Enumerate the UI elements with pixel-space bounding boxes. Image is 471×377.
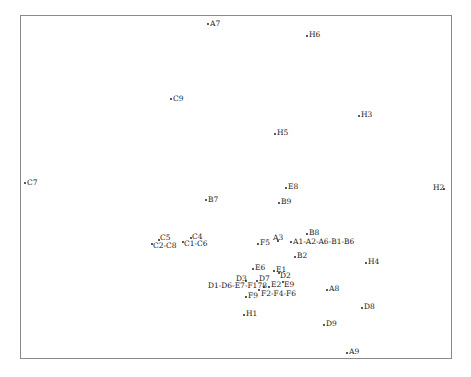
data-point-marker <box>252 268 254 270</box>
data-point-label: H4 <box>368 258 379 266</box>
data-point-marker <box>24 182 26 184</box>
data-point-marker <box>358 115 360 117</box>
data-point-label: E8 <box>288 183 298 191</box>
data-point-marker <box>274 133 276 135</box>
data-point-label: E2 <box>271 281 281 289</box>
data-point-label: C7 <box>27 179 38 187</box>
data-point-marker <box>294 256 296 258</box>
data-point-label: B2 <box>297 252 307 260</box>
data-point-marker <box>326 289 328 291</box>
data-point-label: F5 <box>260 239 270 247</box>
data-point-label: C1-C6 <box>184 240 208 248</box>
data-point-marker <box>278 202 280 204</box>
data-point-label: D2 <box>280 272 291 280</box>
data-point-marker <box>306 35 308 37</box>
data-point-label: H3 <box>361 111 372 119</box>
data-point-marker <box>290 241 292 243</box>
data-point-label: F9 <box>248 292 258 300</box>
data-point-label: H6 <box>309 31 320 39</box>
data-point-marker <box>268 286 270 288</box>
data-point-marker <box>205 199 207 201</box>
data-point-marker <box>245 296 247 298</box>
data-point-label: A3 <box>273 234 283 242</box>
data-point-marker <box>257 243 259 245</box>
data-point-label: C9 <box>173 95 184 103</box>
data-point-marker <box>258 289 260 291</box>
data-point-label: B8 <box>309 229 319 237</box>
data-point-label: E9 <box>284 281 294 289</box>
data-point-label: B7 <box>208 196 218 204</box>
data-point-marker <box>273 270 275 272</box>
data-point-marker <box>346 352 348 354</box>
data-point-label: H5 <box>277 129 288 137</box>
data-point-marker <box>243 314 245 316</box>
data-point-marker <box>365 262 367 264</box>
data-point-label: D8 <box>364 303 375 311</box>
data-point-label: A8 <box>329 285 339 293</box>
plot-frame <box>20 15 452 359</box>
data-point-label: E6 <box>255 264 265 272</box>
data-point-label: H1 <box>246 310 257 318</box>
data-point-label: A7 <box>210 20 220 28</box>
data-point-marker <box>361 307 363 309</box>
data-point-marker <box>323 324 325 326</box>
data-point-label: F2-F4-F6 <box>261 290 296 298</box>
data-point-label: D9 <box>326 320 337 328</box>
data-point-label: B9 <box>281 198 291 206</box>
data-point-label: A9 <box>349 348 359 356</box>
data-point-marker <box>207 23 209 25</box>
data-point-label: A1-A2-A6-B1-B6 <box>293 238 354 246</box>
data-point-marker <box>306 233 308 235</box>
data-point-marker <box>170 98 172 100</box>
data-point-marker <box>285 187 287 189</box>
data-point-label: C2-C8 <box>153 242 177 250</box>
data-point-label: H2 <box>433 184 442 192</box>
